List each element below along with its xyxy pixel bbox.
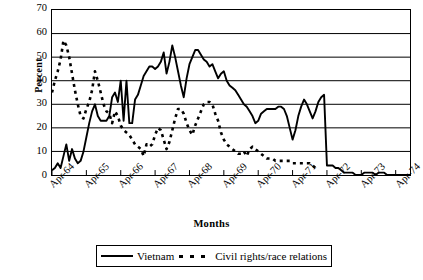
series-line-civil-rights-race-relations	[52, 41, 318, 171]
x-axis-title: Months	[0, 218, 423, 229]
legend-label-civil-rights: Civil rights/race relations	[215, 250, 327, 262]
chart-legend: Vietnam Civil rights/race relations	[96, 245, 332, 267]
x-axis-tick-labels: Apr-64Apr-65Apr-66Apr-67Apr-68Apr-69Apr-…	[0, 176, 423, 222]
series-line-vietnam	[52, 45, 410, 175]
y-tick-label: 30	[17, 98, 47, 108]
y-tick-label: 10	[17, 146, 47, 156]
y-tick-label: 40	[17, 75, 47, 85]
data-series-layer	[52, 10, 410, 175]
y-tick-label: 70	[17, 3, 47, 13]
chart-container: Percent 010203040506070 Apr-64Apr-65Apr-…	[0, 0, 423, 280]
legend-entry-vietnam: Vietnam	[101, 250, 174, 262]
legend-entry-civil-rights: Civil rights/race relations	[179, 250, 327, 262]
legend-swatch-dashed-line-icon	[179, 255, 211, 258]
legend-label-vietnam: Vietnam	[137, 250, 174, 262]
plot-area	[51, 9, 411, 176]
y-tick-label: 50	[17, 51, 47, 61]
y-axis-tick-labels: 010203040506070	[14, 0, 47, 185]
y-tick-label: 60	[17, 27, 47, 37]
y-tick-label: 20	[17, 122, 47, 132]
legend-swatch-solid-line-icon	[101, 255, 133, 257]
